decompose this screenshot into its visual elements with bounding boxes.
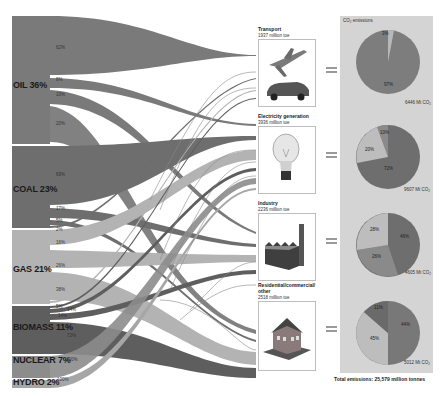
pie-label: 28% [370,227,379,232]
emissions-electricity: 9607 Mt CO₂ [404,187,430,192]
emissions-transport: 6446 Mt CO₂ [405,100,431,105]
pie-label: 20% [365,147,374,152]
pie-label: 44% [401,322,410,327]
pie-label: 26% [372,254,381,259]
pie-label: 45% [370,336,379,341]
pie-label: 72% [384,166,393,171]
emissions-industry: 4605 Mt CO₂ [405,270,431,275]
pie-label: 10% [380,130,389,135]
emissions-residential: 5012 Mt CO₂ [404,360,430,365]
total-emissions: Total emissions: 25,579 million tonnes [334,376,425,382]
pie-label: 46% [400,234,409,239]
pie-label: 3% [382,31,389,36]
pie-label: 97% [384,82,393,87]
pie-label: 11% [374,305,383,310]
emissions-title: CO₂ emissions [343,18,373,23]
